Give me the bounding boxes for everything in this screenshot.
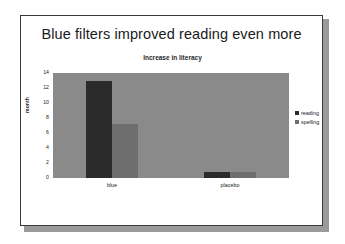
chart-title: Increase in literacy — [21, 54, 324, 61]
legend-item-reading: reading — [295, 110, 325, 116]
bar-blue-reading — [86, 81, 112, 179]
x-axis-category-placebo: placebo — [221, 182, 240, 188]
bar-placebo-spelling — [230, 172, 256, 178]
legend-item-spelling: spelling — [295, 119, 325, 125]
x-axis-tick-labels: blueplacebo — [53, 182, 289, 196]
plot-area — [53, 73, 289, 178]
y-axis-tick: 10 — [43, 100, 49, 105]
legend-swatch-icon — [295, 120, 299, 124]
legend-swatch-icon — [295, 111, 299, 115]
slide-title: Blue filters improved reading even more — [21, 26, 322, 42]
y-axis-tick: 0 — [46, 175, 49, 180]
y-axis-tick: 12 — [43, 85, 49, 90]
y-axis-tick: 8 — [46, 115, 49, 120]
y-axis-tick-labels: 02468101214 — [29, 73, 51, 178]
y-axis-tick: 2 — [46, 160, 49, 165]
chart-legend: readingspelling — [295, 110, 325, 128]
y-axis-tick: 14 — [43, 70, 49, 75]
legend-label: spelling — [301, 119, 319, 125]
bar-chart: Increase in literacy month 02468101214 b… — [21, 54, 324, 226]
presentation-slide: Blue filters improved reading even more … — [20, 15, 323, 226]
x-axis-category-blue: blue — [107, 182, 117, 188]
bar-blue-spelling — [112, 124, 138, 178]
y-axis-tick: 6 — [46, 130, 49, 135]
legend-label: reading — [301, 110, 319, 116]
bar-placebo-reading — [204, 172, 230, 178]
y-axis-tick: 4 — [46, 145, 49, 150]
